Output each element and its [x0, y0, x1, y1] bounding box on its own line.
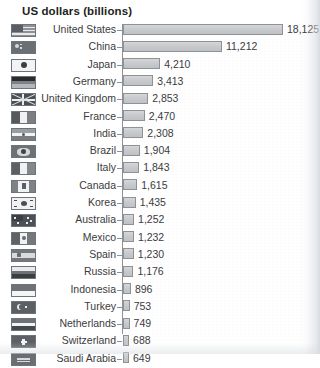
- bar-row: Germany3,413: [0, 74, 320, 91]
- bar-row: France2,470: [0, 109, 320, 126]
- axis-tick: [117, 47, 122, 48]
- bar-row: Canada1,615: [0, 178, 320, 195]
- value-label: 1,252: [138, 212, 164, 227]
- axis-tick: [117, 220, 122, 221]
- category-label: Canada: [0, 178, 116, 194]
- axis-tick: [117, 341, 122, 342]
- value-label: 1,615: [141, 178, 167, 193]
- axis-tick: [117, 290, 122, 291]
- bar: [123, 300, 130, 311]
- bar: [123, 75, 153, 86]
- category-label: Netherlands: [0, 316, 116, 332]
- category-label: China: [0, 39, 116, 55]
- bar-row: Mexico1,232: [0, 230, 320, 247]
- axis-tick: [117, 168, 122, 169]
- axis-tick: [117, 65, 122, 66]
- value-label: 11,212: [226, 39, 257, 54]
- bar: [123, 179, 137, 190]
- value-label: 4,210: [164, 57, 190, 72]
- category-label: Korea: [0, 195, 116, 211]
- plot-area: United States18,125China11,212Japan4,210…: [0, 22, 320, 342]
- category-label: Germany: [0, 74, 116, 90]
- category-label: Indonesia: [0, 282, 116, 298]
- bar: [123, 214, 134, 225]
- bar: [123, 352, 129, 363]
- bar-row: Japan4,210: [0, 57, 320, 74]
- axis-tick: [117, 307, 122, 308]
- category-label: India: [0, 126, 116, 142]
- category-label: Mexico: [0, 230, 116, 246]
- axis-tick: [117, 134, 122, 135]
- value-label: 649: [133, 351, 151, 366]
- category-label: Japan: [0, 57, 116, 73]
- axis-tick: [117, 99, 122, 100]
- bar-row: Switzerland688: [0, 333, 320, 350]
- value-label: 1,904: [144, 143, 170, 158]
- bar-row: United States18,125: [0, 22, 320, 39]
- bar: [123, 231, 134, 242]
- category-label: Brazil: [0, 143, 116, 159]
- value-label: 1,232: [138, 230, 164, 245]
- bar: [123, 127, 143, 138]
- bar: [123, 145, 140, 156]
- bar: [123, 335, 129, 346]
- bar-row: Saudi Arabia649: [0, 351, 320, 368]
- axis-tick: [117, 203, 122, 204]
- bar-row: Brazil1,904: [0, 143, 320, 160]
- bar-row: China11,212: [0, 39, 320, 56]
- value-label: 1,176: [137, 264, 163, 279]
- value-label: 896: [135, 282, 153, 297]
- axis-tick: [117, 324, 122, 325]
- bar-row: Spain1,230: [0, 247, 320, 264]
- value-label: 753: [134, 299, 152, 314]
- axis-tick: [117, 151, 122, 152]
- value-label: 1,230: [138, 247, 164, 262]
- category-label: United Kingdom: [0, 91, 116, 107]
- axis-tick: [117, 272, 122, 273]
- chart-title: US dollars (billions): [22, 5, 132, 17]
- bar-row: Russia1,176: [0, 264, 320, 281]
- category-label: Russia: [0, 264, 116, 280]
- value-label: 2,308: [147, 126, 173, 141]
- category-label: Italy: [0, 160, 116, 176]
- bar-row: Indonesia896: [0, 282, 320, 299]
- category-label: Turkey: [0, 299, 116, 315]
- axis-tick: [117, 238, 122, 239]
- bar-row: Netherlands749: [0, 316, 320, 333]
- category-label: Spain: [0, 247, 116, 263]
- axis-tick: [117, 359, 122, 360]
- bar: [123, 318, 130, 329]
- bar: [123, 110, 145, 121]
- bar: [123, 266, 133, 277]
- bar-row: Italy1,843: [0, 160, 320, 177]
- bar-row: India2,308: [0, 126, 320, 143]
- bar: [123, 41, 222, 52]
- value-label: 1,843: [143, 160, 169, 175]
- axis-tick: [117, 255, 122, 256]
- bar: [123, 93, 148, 104]
- bar: [123, 58, 160, 69]
- value-label: 3,413: [157, 74, 183, 89]
- value-label: 1,435: [140, 195, 166, 210]
- value-label: 18,125: [287, 22, 319, 37]
- category-label: Switzerland: [0, 333, 116, 349]
- bar: [123, 248, 134, 259]
- value-label: 688: [133, 333, 151, 348]
- bar-row: United Kingdom2,853: [0, 91, 320, 108]
- bar-row: Korea1,435: [0, 195, 320, 212]
- bar: [123, 197, 136, 208]
- value-label: 749: [134, 316, 152, 331]
- category-label: France: [0, 109, 116, 125]
- value-label: 2,853: [152, 91, 178, 106]
- axis-tick: [117, 186, 122, 187]
- category-label: United States: [0, 22, 116, 38]
- bar: [123, 162, 139, 173]
- value-label: 2,470: [149, 109, 175, 124]
- axis-tick: [117, 117, 122, 118]
- axis-tick: [117, 30, 122, 31]
- category-label: Australia: [0, 212, 116, 228]
- bar: [123, 24, 283, 35]
- bar-row: Turkey753: [0, 299, 320, 316]
- bar: [123, 283, 131, 294]
